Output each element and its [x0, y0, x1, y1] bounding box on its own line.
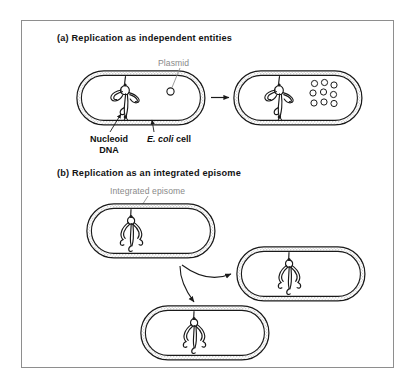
panel-b-graphics [87, 196, 365, 360]
panel-a-graphics [77, 68, 362, 132]
plasmid-label: Plasmid [158, 58, 189, 68]
plasmid-copies-group [310, 79, 337, 106]
panel-b-daughter-cell-upper [237, 247, 365, 301]
ecoli-cell-label: E. coli cell [147, 134, 191, 144]
ecoli-cell-word: cell [176, 134, 191, 144]
panel-a-parent-cell [77, 71, 205, 125]
panel-b-title: (b) Replication as an integrated episome [57, 168, 241, 178]
diagram-canvas [0, 0, 416, 385]
figure-root: (a) Replication as independent entities … [0, 0, 416, 385]
panel-a-daughter-cell [234, 71, 362, 125]
nucleoid-label-line2: DNA [99, 145, 119, 155]
ecoli-species: coli [158, 134, 174, 144]
plasmid-circle [167, 88, 174, 95]
panel-b-parent-cell [87, 204, 215, 258]
panel-a-title: (a) Replication as independent entities [57, 33, 232, 43]
nucleoid-label-line1: Nucleoid [90, 134, 128, 144]
panel-b-division-arrow-upper [182, 265, 231, 277]
nucleoid-dna-label: Nucleoid DNA [84, 134, 134, 156]
integrated-episome-label: Integrated episome [110, 186, 185, 196]
panel-b-daughter-cell-lower [141, 306, 269, 360]
ecoli-genus: E. [147, 134, 156, 144]
